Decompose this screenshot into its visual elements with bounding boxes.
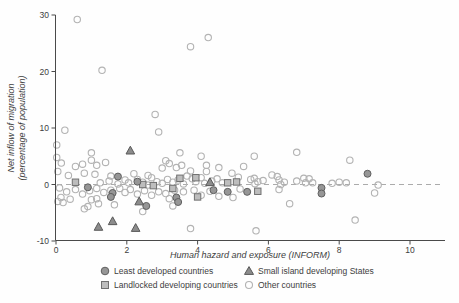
scatter-plot-figure: 0246810-100102030 Human hazard and expos…: [0, 0, 459, 303]
point-landlocked: [233, 179, 239, 185]
point-other: [177, 150, 183, 156]
point-other: [159, 165, 165, 171]
point-landlocked: [255, 188, 261, 194]
y-tick-label: -10: [37, 236, 50, 246]
y-tick-label: 0: [44, 180, 49, 190]
legend-item-landlocked: Landlocked developing countries: [102, 280, 238, 290]
point-other: [230, 194, 236, 200]
point-landlocked: [193, 175, 199, 181]
point-other: [216, 164, 222, 170]
point-other: [180, 189, 186, 195]
point-least-developed: [364, 170, 371, 177]
point-small-island: [135, 197, 144, 205]
x-tick-label: 2: [124, 245, 129, 255]
point-other: [56, 185, 62, 191]
x-tick-label: 8: [337, 245, 342, 255]
point-other: [198, 153, 204, 159]
point-landlocked: [194, 194, 200, 200]
point-other: [155, 189, 161, 195]
point-least-developed: [175, 199, 182, 206]
series-circle-open: [54, 16, 382, 234]
point-least-developed: [114, 173, 121, 180]
point-least-developed: [210, 187, 217, 194]
y-tick-label: 30: [40, 10, 50, 20]
point-landlocked: [224, 180, 230, 186]
point-other: [141, 188, 147, 194]
y-axis-title-line2: (percentage of population): [17, 75, 27, 180]
point-other: [155, 129, 161, 135]
point-least-developed: [134, 178, 141, 185]
point-other: [81, 170, 87, 176]
data-points-layer: [54, 16, 382, 234]
point-other: [229, 170, 235, 176]
point-small-island: [108, 217, 117, 225]
point-other: [99, 67, 105, 73]
point-other: [253, 228, 259, 234]
point-other: [54, 154, 60, 160]
point-other: [72, 186, 78, 192]
point-least-developed: [244, 188, 251, 195]
legend: Least developed countries Landlocked dev…: [101, 266, 374, 290]
point-other: [62, 127, 68, 133]
point-other: [237, 186, 243, 192]
point-other: [54, 142, 60, 148]
point-other: [65, 172, 71, 178]
legend-item-least-developed: Least developed countries: [101, 266, 213, 276]
point-other: [294, 149, 300, 155]
point-landlocked: [72, 179, 78, 185]
x-tick-label: 10: [405, 245, 415, 255]
point-least-developed: [224, 188, 231, 195]
filled-triangle-marker-icon: [245, 267, 254, 275]
open-circle-marker-icon: [246, 282, 253, 289]
point-other: [88, 150, 94, 156]
point-other: [286, 201, 292, 207]
point-other: [58, 160, 64, 166]
point-other: [343, 180, 349, 186]
point-other: [191, 187, 197, 193]
legend-label: Small island developing States: [258, 266, 374, 276]
legend-label: Landlocked developing countries: [114, 280, 238, 290]
legend-label: Other countries: [258, 280, 316, 290]
point-other: [79, 161, 85, 167]
y-tick-label: 20: [40, 67, 50, 77]
point-other: [134, 191, 140, 197]
point-least-developed: [318, 190, 325, 197]
point-other: [251, 153, 257, 159]
point-other: [294, 178, 300, 184]
point-other: [72, 163, 78, 169]
point-other: [63, 189, 69, 195]
filled-circle-marker-icon: [101, 267, 109, 275]
point-other: [79, 191, 85, 197]
legend-label: Least developed countries: [114, 266, 213, 276]
point-small-island: [126, 146, 135, 154]
point-other: [240, 163, 246, 169]
scatter-plot: 0246810-100102030 Human hazard and expos…: [0, 0, 459, 303]
point-other: [203, 168, 209, 174]
axes-layer: 0246810-100102030: [37, 10, 445, 255]
point-other: [152, 111, 158, 117]
point-other: [216, 193, 222, 199]
point-other: [88, 157, 94, 163]
point-other: [178, 162, 184, 168]
point-least-developed: [107, 193, 114, 200]
point-other: [148, 192, 154, 198]
x-tick-label: 0: [54, 245, 59, 255]
point-other: [67, 196, 73, 202]
point-least-developed: [84, 184, 91, 191]
point-other: [203, 162, 209, 168]
point-other: [166, 195, 172, 201]
point-other: [187, 225, 193, 231]
point-other: [347, 157, 353, 163]
point-other: [94, 185, 100, 191]
point-other: [371, 190, 377, 196]
point-other: [187, 43, 193, 49]
point-other: [329, 180, 335, 186]
point-least-developed: [143, 202, 150, 209]
legend-item-small-island: Small island developing States: [245, 266, 374, 276]
point-landlocked: [170, 185, 176, 191]
point-small-island: [131, 224, 140, 232]
point-other: [74, 16, 80, 22]
point-landlocked: [150, 182, 156, 188]
y-tick-label: 10: [40, 123, 50, 133]
y-axis-title-line1: Net inflow of migration: [6, 83, 16, 172]
